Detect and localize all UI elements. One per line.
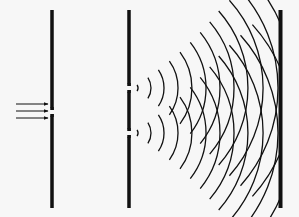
wavefront-arc [200,32,220,143]
wavefront-arc [137,130,138,136]
incident-light-arrows [16,104,48,118]
wavefront-arc [158,70,164,106]
double-slit-barrier [127,10,131,208]
diagram-canvas [0,0,299,217]
single-slit-barrier [50,10,54,208]
double-slit-diagram [0,0,299,217]
barriers [50,10,282,208]
wavefront-arc [158,115,164,151]
wavefront-arc [200,77,220,188]
wavefront-arc [169,61,178,115]
wavefront-arcs [137,0,294,217]
wavefront-arc [169,106,178,160]
wavefront-arc [210,67,234,199]
wavefront-arc [190,42,206,133]
wavefront-arc [210,22,234,154]
wavefront-arc [137,85,138,91]
screen [279,10,283,208]
wavefront-arc [190,87,206,178]
wavefront-arc [148,78,151,99]
wavefront-arc [148,123,151,144]
